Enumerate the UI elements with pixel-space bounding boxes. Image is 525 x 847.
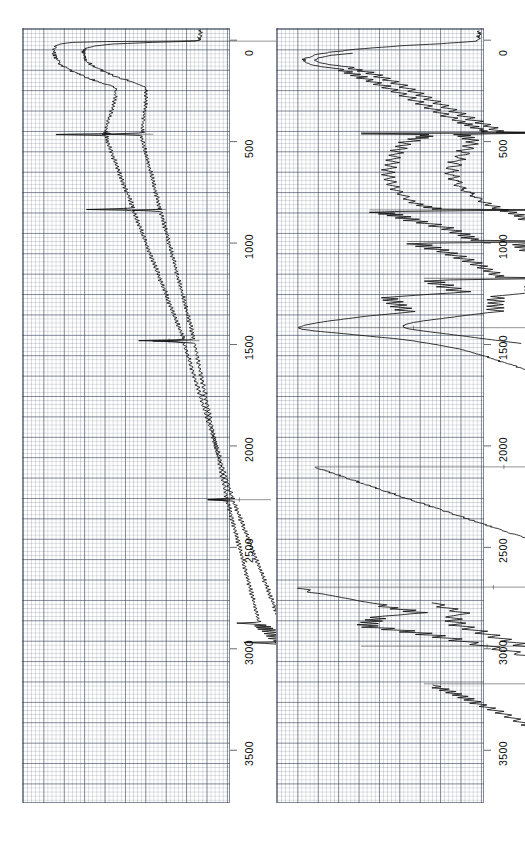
axis-tick-label: 2500 [497, 538, 509, 563]
well-log-figure: 0500100015002000250030003500 05001000150… [0, 0, 525, 847]
plot-area-left [22, 28, 230, 803]
curves-left [23, 29, 229, 802]
log-curve [432, 685, 525, 768]
log-curve [432, 603, 525, 654]
axis-tick-label: 500 [243, 139, 255, 158]
panel-left: 0500100015002000250030003500 [0, 0, 262, 847]
plot-area-right [276, 28, 484, 803]
panel-right: 0500100015002000250030003500 [262, 0, 524, 847]
axis-tick-label: 1000 [243, 234, 255, 259]
log-curve [316, 468, 525, 587]
axis-tick-label: 2000 [497, 437, 509, 462]
axis-tick-label: 2000 [243, 437, 255, 462]
axis-tick-label: 0 [497, 50, 509, 56]
axis-tick-label: 1500 [243, 336, 255, 361]
log-curve [314, 53, 525, 343]
axis-tick-label: 0 [243, 50, 255, 56]
log-curve [298, 31, 525, 432]
axis-tick-label: 3000 [497, 640, 509, 665]
axis-tick-label: 1000 [497, 234, 509, 259]
log-curve [298, 588, 525, 683]
axis-tick-label: 2500 [243, 538, 255, 563]
axis-tick-label: 3000 [243, 640, 255, 665]
axis-tick-label: 1500 [497, 336, 509, 361]
axis-tick-label: 3500 [243, 741, 255, 766]
axis-tick-label: 500 [497, 139, 509, 158]
axis-tick-label: 3500 [497, 741, 509, 766]
curves-right [277, 29, 483, 802]
